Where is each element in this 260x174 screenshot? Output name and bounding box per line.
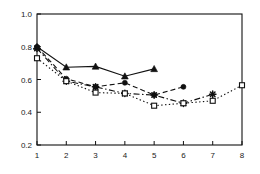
line-chart-plot: 0.20.40.60.81.012345678 [0,0,260,174]
y-tick-label: 0.2 [21,141,33,150]
axis-tick-labels: 0.20.40.60.81.012345678 [21,10,245,160]
data-point-marker [122,91,127,96]
data-point-marker [35,56,40,61]
data-point-marker [240,83,245,88]
data-point-marker [92,84,98,90]
data-point-marker [151,92,157,98]
x-tick-label: 3 [93,151,98,160]
data-point-marker [181,101,186,106]
x-tick-label: 7 [210,151,215,160]
x-tick-label: 8 [240,151,245,160]
chart-container: 0.20.40.60.81.012345678 [0,0,260,174]
data-point-marker [93,90,98,95]
data-point-marker [210,98,215,103]
y-tick-label: 0.4 [21,108,33,117]
x-tick-label: 1 [35,151,40,160]
data-point-marker [34,45,40,51]
data-series-series-1 [34,43,158,79]
data-point-marker [151,65,158,71]
y-tick-label: 0.8 [21,43,33,52]
data-series-layer [34,43,245,108]
x-tick-label: 4 [123,151,128,160]
data-point-marker [181,84,186,89]
x-tick-label: 6 [181,151,186,160]
x-tick-label: 5 [152,151,157,160]
data-point-marker [210,91,216,97]
x-tick-label: 2 [64,151,69,160]
data-series-series-4 [35,56,245,108]
data-point-marker [64,79,69,84]
series-line [37,47,154,76]
y-tick-label: 0.6 [21,76,33,85]
y-tick-label: 1.0 [21,10,33,19]
data-point-marker [152,103,157,108]
data-point-marker [122,80,127,85]
